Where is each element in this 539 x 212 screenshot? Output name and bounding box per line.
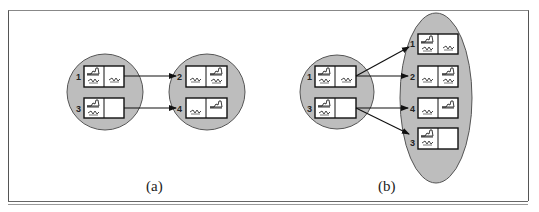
caption-a: (a) [146, 178, 163, 195]
node-b-l1: 1 [307, 66, 356, 87]
node-label: 1 [410, 39, 415, 49]
node-label: 1 [76, 72, 81, 82]
node-label: 2 [410, 72, 415, 82]
node-label: 2 [177, 72, 182, 82]
node-label: 4 [410, 104, 415, 114]
diagram-canvas: 1 3 2 4 [0, 0, 539, 212]
node-b-l3: 3 [307, 98, 356, 118]
node-label: 1 [307, 72, 312, 82]
panel-b: 1 3 1 2 [300, 13, 472, 183]
node-label: 3 [410, 138, 415, 148]
node-label: 3 [307, 104, 312, 114]
node-label: 4 [177, 104, 182, 114]
caption-b: (b) [378, 178, 396, 195]
edge-b-1-1 [356, 47, 409, 76]
panel-a: 1 3 2 4 [67, 54, 245, 130]
node-label: 3 [76, 104, 81, 114]
